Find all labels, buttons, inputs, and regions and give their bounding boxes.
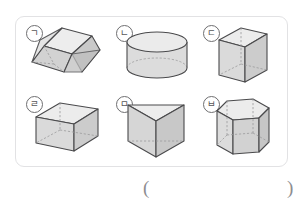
rectangular-prism-tall-figure [197,20,288,92]
cylinder-figure [110,20,201,92]
rectangular-prism-wide-figure [20,91,111,163]
trapezoidal-prism-figure [20,20,111,92]
answer-open-paren: ( [143,178,149,198]
solid-item-hexagonal-prism[interactable]: ㅂ [197,91,288,163]
triangular-prism-figure [110,91,201,163]
answer-blank[interactable]: ( ) [0,178,303,208]
worksheet-page: ㄱ [0,0,303,218]
solid-item-cylinder[interactable]: ㄴ [110,20,201,92]
hexagonal-prism-figure [197,91,288,163]
solids-panel: ㄱ [15,16,288,167]
answer-close-paren: ) [287,178,293,198]
solid-item-rectangular-prism-wide[interactable]: ㄹ [20,91,111,163]
solid-item-rectangular-prism-tall[interactable]: ㄷ [197,20,288,92]
solid-item-trapezoidal-prism[interactable]: ㄱ [20,20,111,92]
solid-item-triangular-prism[interactable]: ㅁ [110,91,201,163]
